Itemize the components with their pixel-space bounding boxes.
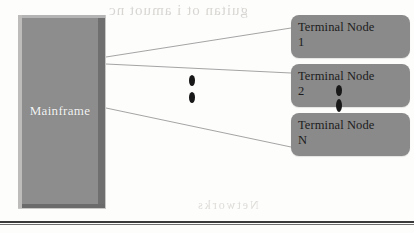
mainframe-face: Mainframe xyxy=(22,18,98,204)
terminal-node-1-label: Terminal Node 1 xyxy=(298,20,410,50)
footer-rule-thick xyxy=(0,221,414,223)
mainframe-label: Mainframe xyxy=(30,103,90,119)
ellipsis-dot-node-upper xyxy=(336,85,342,96)
ellipsis-dot-middle-lower xyxy=(189,92,195,103)
mainframe-block[interactable]: Mainframe xyxy=(18,15,106,209)
mainframe-bevel-bottom xyxy=(22,204,105,208)
terminal-node-2-label: Terminal Node 2 xyxy=(298,69,410,99)
footer-rule-thin xyxy=(0,224,414,225)
ellipsis-dot-node-lower xyxy=(336,99,342,112)
mainframe-bevel-right xyxy=(98,18,105,204)
terminal-node-2[interactable]: Terminal Node 2 xyxy=(291,64,410,107)
terminal-node-n-label: Terminal Node N xyxy=(298,118,410,148)
connector-line-to-node-3 xyxy=(106,108,291,147)
diagram-canvas: guitan ot i amuot nc nodes of the Networ… xyxy=(0,0,414,233)
terminal-node-n[interactable]: Terminal Node N xyxy=(291,113,410,156)
connector-line-to-node-1 xyxy=(106,28,291,57)
connector-line-to-node-2 xyxy=(106,64,291,73)
terminal-node-1[interactable]: Terminal Node 1 xyxy=(291,15,410,58)
ellipsis-dot-middle-upper xyxy=(189,75,195,86)
